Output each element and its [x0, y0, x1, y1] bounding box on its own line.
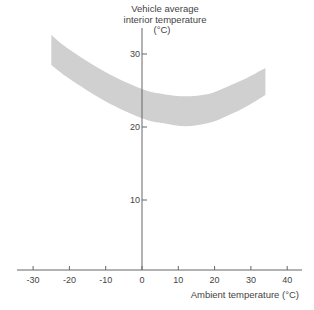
- y-axis-label-line: (°C): [154, 24, 171, 35]
- comfort-band-area: [51, 35, 265, 126]
- y-axis-ticks: 102030: [130, 49, 147, 205]
- x-tick-label: 0: [139, 275, 144, 285]
- x-tick-label: -20: [63, 275, 76, 285]
- y-axis-label-line: interior temperature: [124, 14, 207, 25]
- y-tick-label: 10: [130, 195, 140, 205]
- x-tick-label: -30: [27, 275, 40, 285]
- x-axis-ticks: -30-20-10010203040: [27, 266, 293, 285]
- x-tick-label: 10: [173, 275, 183, 285]
- x-axis-label: Ambient temperature (°C): [191, 289, 299, 300]
- y-axis-label: Vehicle averageinterior temperature(°C): [124, 3, 207, 35]
- chart: -30-20-10010203040 102030 Ambient temper…: [0, 0, 314, 310]
- y-axis-label-line: Vehicle average: [131, 3, 199, 14]
- x-tick-label: 20: [210, 275, 220, 285]
- y-tick-label: 30: [130, 49, 140, 59]
- x-tick-label: -10: [99, 275, 112, 285]
- x-tick-label: 40: [282, 275, 292, 285]
- y-tick-label: 20: [130, 122, 140, 132]
- x-tick-label: 30: [246, 275, 256, 285]
